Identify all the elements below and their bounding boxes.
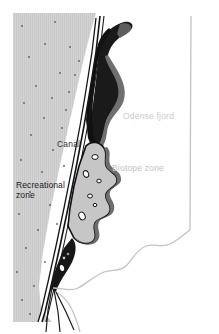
map-figure: Odense fjord Biotope zone Canal Recreati…	[0, 0, 219, 334]
map-canvas	[0, 0, 219, 334]
map-label-recreational-zone: Recreational zone	[16, 181, 65, 201]
map-label-odense-fjord: Odense fjord	[123, 112, 174, 122]
map-label-biotope-zone: Biotope zone	[112, 164, 164, 174]
map-label-canal: Canal	[57, 140, 80, 150]
